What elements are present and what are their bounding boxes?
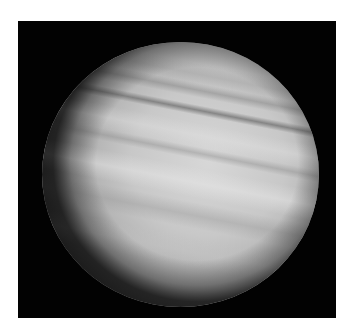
space-background (18, 21, 336, 318)
planet-limb-shading (42, 42, 319, 307)
image-frame (0, 0, 357, 334)
planet (42, 42, 319, 307)
